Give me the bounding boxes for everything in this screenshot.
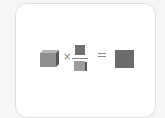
fraction-numerator-square-icon <box>75 45 85 55</box>
cube-side-face <box>56 50 59 67</box>
cube-front-face <box>40 53 56 67</box>
equals-sign <box>98 52 106 58</box>
multiply-sign: × <box>63 52 71 62</box>
result-square-icon <box>115 50 134 68</box>
visual-equation: × <box>0 0 165 110</box>
fraction-bar <box>72 58 88 59</box>
denominator-cube-side <box>85 62 87 71</box>
cube-icon <box>40 50 58 66</box>
fraction-denominator-cube-icon <box>74 61 85 71</box>
